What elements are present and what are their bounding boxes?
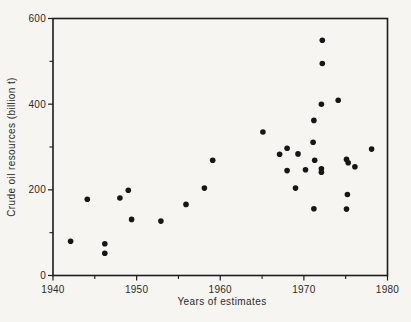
data-point [85,197,91,203]
x-tick-label: 1970 [292,284,316,295]
data-point [260,129,266,135]
data-point [68,238,74,244]
x-axis-tick-labels: 19401950196019701980 [41,284,399,295]
data-point [277,152,283,158]
data-point [126,188,132,194]
data-point [158,218,164,224]
plot-border [53,19,388,276]
data-point [319,101,325,107]
scatter-plot-figure: 19401950196019701980 0200400600 Years of… [0,0,411,322]
data-point [312,158,318,164]
data-point [369,146,375,152]
data-point [320,61,326,67]
data-point [210,158,216,164]
data-point [335,98,341,104]
data-point [303,167,309,173]
data-point [345,192,351,198]
data-points [68,38,375,257]
data-point [311,118,317,124]
data-point [202,185,208,191]
data-point [102,250,108,256]
data-point [284,168,290,174]
data-point [310,140,316,146]
y-tick-label: 200 [28,184,46,195]
data-point [183,202,189,208]
y-tick-label: 400 [28,99,46,110]
x-tick-label: 1980 [376,284,400,295]
data-point [311,206,317,212]
data-point [117,195,123,201]
y-tick-label: 600 [28,13,46,24]
y-axis-title: Crude oil resources (billion t) [6,77,17,217]
y-axis-tick-labels: 0200400600 [28,13,46,281]
y-tick-label: 0 [40,270,46,281]
data-point [293,185,299,191]
data-point [102,241,108,247]
scatter-chart: 19401950196019701980 0200400600 Years of… [0,0,411,322]
data-point [284,146,290,152]
data-point [345,160,351,166]
data-point [352,164,358,170]
data-point [344,206,350,212]
data-point [129,217,135,223]
x-tick-label: 1960 [209,284,233,295]
data-point [295,151,301,157]
data-point [319,170,325,176]
x-axis-title: Years of estimates [177,296,266,307]
data-point [320,38,326,44]
x-tick-label: 1940 [41,284,65,295]
x-tick-label: 1950 [125,284,149,295]
